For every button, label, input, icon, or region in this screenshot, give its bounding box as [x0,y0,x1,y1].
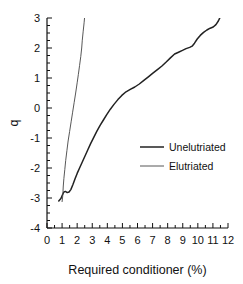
x-axis-title: Required conditioner (%) [68,263,206,277]
x-tick-label: 12 [222,234,234,246]
x-tick-label: 4 [104,234,110,246]
x-tick-label: 6 [134,234,140,246]
y-tick-label: -2 [30,162,40,174]
x-tick-label: 9 [180,234,186,246]
series-line-1 [62,16,85,201]
legend-label-1: Elutriated [169,160,214,172]
series-line-0 [59,17,221,202]
y-tick-label: -4 [30,222,40,234]
x-tick-label: 8 [165,234,171,246]
y-axis-title: q [7,119,21,126]
chart-figure: 01234567891011123210-1-2-3-4Required con… [0,0,243,284]
y-tick-label: -1 [30,132,40,144]
x-tick-label: 0 [44,234,50,246]
x-tick-label: 3 [89,234,95,246]
y-tick-label: 3 [34,12,40,24]
y-tick-label: 2 [34,42,40,54]
x-tick-label: 2 [74,234,80,246]
x-tick-label: 5 [119,234,125,246]
x-tick-label: 10 [192,234,204,246]
y-tick-label: -3 [30,192,40,204]
line-chart: 01234567891011123210-1-2-3-4Required con… [0,0,243,284]
legend-label-0: Unelutriated [169,141,226,153]
x-tick-label: 1 [59,234,65,246]
x-tick-label: 11 [207,234,218,246]
x-tick-label: 7 [150,234,156,246]
y-tick-label: 0 [34,102,40,114]
y-tick-label: 1 [34,72,40,84]
